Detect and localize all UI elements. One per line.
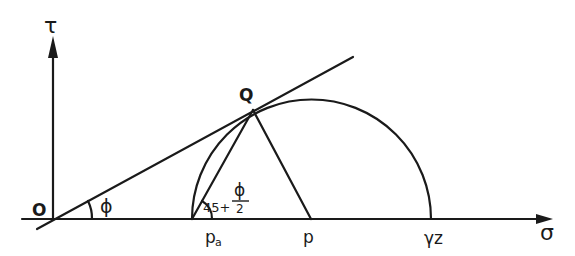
sigma-axis-label: σ — [540, 220, 554, 245]
failure-angle-numerator: ϕ — [234, 180, 245, 200]
failure-angle-prefix: 45+ — [203, 200, 230, 215]
phi-angle-label: ϕ — [100, 195, 113, 217]
failure-envelope-line — [37, 57, 353, 229]
origin-label: O — [32, 200, 46, 220]
q-point-label: Q — [239, 85, 253, 105]
mohr-circle-diagram: τ σ O ϕ Q 45+ ϕ 2 p a p γz — [0, 0, 575, 256]
tau-axis-arrow-icon — [48, 36, 58, 58]
tau-axis-label: τ — [44, 13, 57, 38]
phi-angle-arc — [88, 201, 92, 219]
center-label: p — [303, 227, 314, 247]
max-stress-label: γz — [424, 228, 443, 248]
pole-subscript: a — [215, 236, 222, 249]
q-to-center-line — [253, 110, 311, 219]
failure-angle-denominator: 2 — [236, 202, 244, 216]
